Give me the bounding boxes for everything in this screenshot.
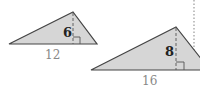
small-triangle-base-label: 12 — [45, 48, 60, 62]
large-triangle-base-label: 16 — [142, 74, 157, 88]
triangles-diagram: 6 12 8 16 — [0, 0, 200, 91]
large-triangle-height-label: 8 — [165, 44, 174, 59]
small-triangle-height-label: 6 — [63, 25, 72, 40]
large-triangle: 8 16 — [91, 27, 200, 88]
small-triangle: 6 12 — [9, 12, 97, 62]
small-triangle-shape — [9, 12, 97, 44]
